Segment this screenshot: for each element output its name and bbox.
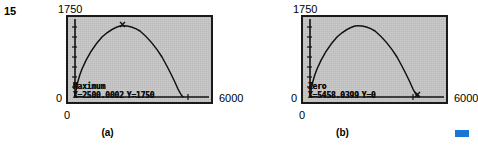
calculator-screen-a: Maximum X=2500.0002Y=1750 bbox=[66, 15, 213, 104]
figure-caption-b: (b) bbox=[235, 127, 450, 138]
calculator-screen-b: Zero X=5458.0399Y=0 bbox=[301, 15, 448, 104]
readout-title: Zero bbox=[308, 82, 376, 91]
calculator-readout-a: Maximum X=2500.0002Y=1750 bbox=[73, 82, 154, 100]
x-axis-max-label: 6000 bbox=[454, 92, 478, 104]
blue-marker bbox=[455, 130, 469, 137]
readout-values: X=2500.0002Y=1750 bbox=[73, 91, 154, 100]
calculator-readout-b: Zero X=5458.0399Y=0 bbox=[308, 82, 376, 100]
figure-caption-a: (a) bbox=[0, 127, 215, 138]
figure-panel-a: 1750 Maximum bbox=[0, 0, 215, 146]
readout-title: Maximum bbox=[73, 82, 154, 91]
readout-x-value: X=5458.0399 bbox=[308, 91, 359, 100]
figure-panel-b: 1750 Zero X=5458.0399Y=0 0 bbox=[235, 0, 450, 146]
readout-values: X=5458.0399Y=0 bbox=[308, 91, 376, 100]
readout-x-value: X=2500.0002 bbox=[73, 91, 124, 100]
x-axis-origin-label: 0 bbox=[64, 109, 70, 121]
y-axis-origin-label: 0 bbox=[291, 92, 297, 104]
readout-y-value: Y=1750 bbox=[127, 91, 155, 100]
y-axis-origin-label: 0 bbox=[56, 92, 62, 104]
x-axis-origin-label: 0 bbox=[299, 109, 305, 121]
y-axis-max-label: 1750 bbox=[58, 3, 82, 15]
y-axis-max-label: 1750 bbox=[293, 3, 317, 15]
readout-y-value: Y=0 bbox=[362, 91, 376, 100]
